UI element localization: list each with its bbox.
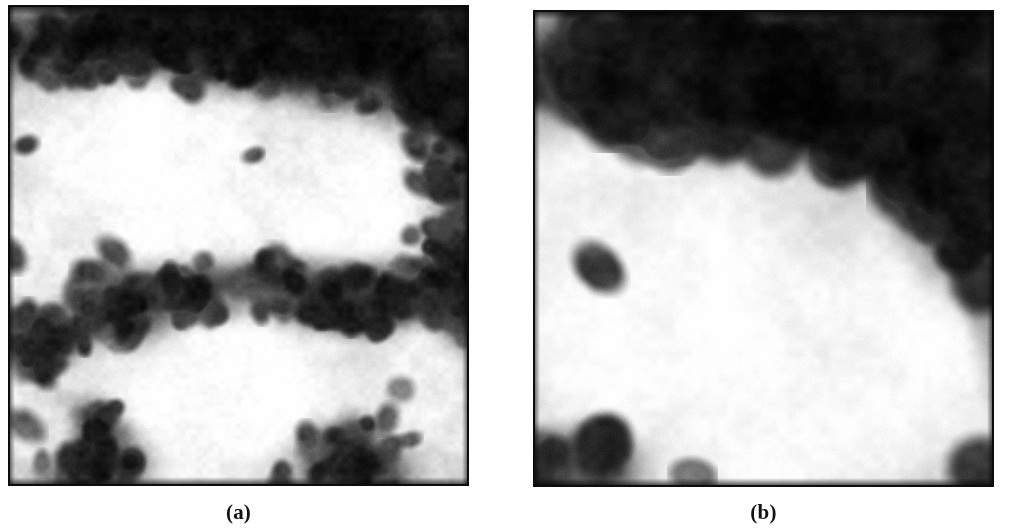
panel-b-caption: (b) <box>533 502 994 523</box>
micrograph-panel-a <box>8 5 469 486</box>
micrograph-panel-b <box>533 10 994 487</box>
panel-a-caption: (a) <box>8 502 469 523</box>
figure-root: (a) (b) <box>0 0 1009 529</box>
micrograph-image-a <box>8 5 469 486</box>
micrograph-image-b <box>533 10 994 487</box>
